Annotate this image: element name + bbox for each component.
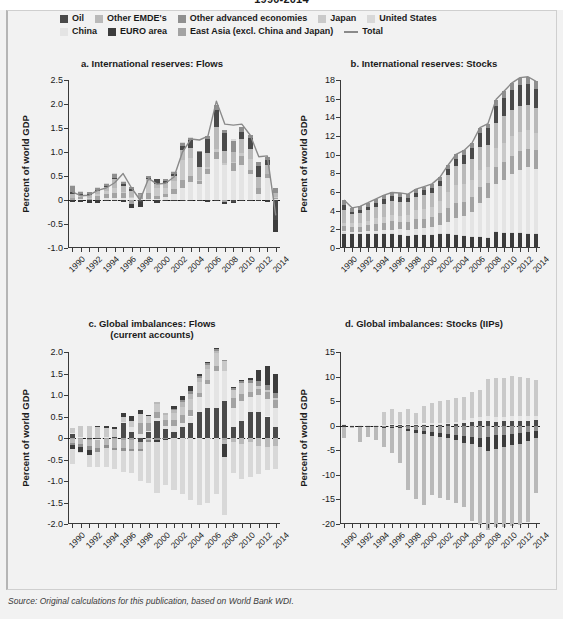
bar-1999[interactable] (146, 352, 151, 524)
bar-1993[interactable] (366, 80, 371, 248)
bar-2000[interactable] (422, 352, 427, 524)
bar-2002[interactable] (438, 80, 443, 248)
bar-1992[interactable] (87, 352, 92, 524)
bar-2009[interactable] (494, 352, 499, 524)
bar-1996[interactable] (121, 80, 126, 248)
bar-2006[interactable] (470, 80, 475, 248)
bar-2008[interactable] (486, 80, 491, 248)
bar-2004[interactable] (188, 80, 193, 248)
bar-1994[interactable] (104, 80, 109, 248)
bar-2003[interactable] (180, 80, 185, 248)
bar-2004[interactable] (454, 80, 459, 248)
bar-2013[interactable] (526, 80, 531, 248)
bar-2003[interactable] (446, 352, 451, 524)
bar-1992[interactable] (87, 80, 92, 248)
bar-2004[interactable] (454, 352, 459, 524)
legend-item-japan[interactable]: Japan (318, 12, 356, 25)
bar-2010[interactable] (239, 352, 244, 524)
bar-2011[interactable] (248, 80, 253, 248)
bar-2013[interactable] (265, 352, 270, 524)
bar-1996[interactable] (390, 80, 395, 248)
bar-2007[interactable] (214, 352, 219, 524)
bar-1990[interactable] (70, 352, 75, 524)
bar-2004[interactable] (188, 352, 193, 524)
bar-1994[interactable] (374, 80, 379, 248)
bar-1996[interactable] (121, 352, 126, 524)
bar-1993[interactable] (366, 352, 371, 524)
bar-2009[interactable] (231, 352, 236, 524)
bar-2011[interactable] (248, 352, 253, 524)
bar-1990[interactable] (342, 352, 347, 524)
bar-2009[interactable] (494, 80, 499, 248)
legend-item-other-advanced-economies[interactable]: Other advanced economies (178, 12, 308, 25)
legend-item-china[interactable]: China (60, 25, 97, 38)
bar-2001[interactable] (163, 352, 168, 524)
bar-1997[interactable] (129, 80, 134, 248)
bar-1999[interactable] (146, 80, 151, 248)
bar-2001[interactable] (163, 80, 168, 248)
bar-1999[interactable] (414, 80, 419, 248)
bar-1996[interactable] (390, 352, 395, 524)
bar-1998[interactable] (406, 80, 411, 248)
bar-1990[interactable] (342, 80, 347, 248)
legend-item-oil[interactable]: Oil (60, 12, 84, 25)
bar-2003[interactable] (180, 352, 185, 524)
legend-item-united-states[interactable]: United States (367, 12, 437, 25)
bar-2007[interactable] (214, 80, 219, 248)
bar-2001[interactable] (430, 352, 435, 524)
bar-2013[interactable] (265, 80, 270, 248)
bar-1994[interactable] (104, 352, 109, 524)
bar-2005[interactable] (197, 352, 202, 524)
bar-2014[interactable] (534, 80, 539, 248)
bar-2003[interactable] (446, 80, 451, 248)
bar-2008[interactable] (222, 352, 227, 524)
bar-2012[interactable] (256, 80, 261, 248)
bar-2008[interactable] (222, 80, 227, 248)
bar-2007[interactable] (478, 352, 483, 524)
bar-2014[interactable] (273, 352, 278, 524)
bar-2011[interactable] (510, 352, 515, 524)
bar-1991[interactable] (350, 352, 355, 524)
legend-item-total[interactable]: Total (344, 25, 383, 38)
bar-2012[interactable] (256, 352, 261, 524)
bar-2002[interactable] (171, 352, 176, 524)
bar-2002[interactable] (171, 80, 176, 248)
bar-2001[interactable] (430, 80, 435, 248)
bar-1991[interactable] (78, 80, 83, 248)
bar-2000[interactable] (154, 352, 159, 524)
legend-item-east-asia-excl-china-and-japan[interactable]: East Asia (excl. China and Japan) (178, 25, 333, 38)
bar-2011[interactable] (510, 80, 515, 248)
bar-1995[interactable] (382, 80, 387, 248)
bar-2006[interactable] (205, 352, 210, 524)
bar-2012[interactable] (518, 352, 523, 524)
bar-2006[interactable] (205, 80, 210, 248)
bar-1992[interactable] (358, 352, 363, 524)
bar-1995[interactable] (382, 352, 387, 524)
bar-1998[interactable] (138, 80, 143, 248)
bar-1993[interactable] (95, 352, 100, 524)
bar-1990[interactable] (70, 80, 75, 248)
bar-1993[interactable] (95, 80, 100, 248)
bar-1992[interactable] (358, 80, 363, 248)
bar-2000[interactable] (422, 80, 427, 248)
bar-2014[interactable] (273, 80, 278, 248)
bar-1998[interactable] (406, 352, 411, 524)
bar-1997[interactable] (398, 80, 403, 248)
bar-2010[interactable] (239, 80, 244, 248)
bar-1997[interactable] (398, 352, 403, 524)
bar-2005[interactable] (462, 80, 467, 248)
bar-2009[interactable] (231, 80, 236, 248)
bar-1995[interactable] (112, 80, 117, 248)
bar-1991[interactable] (350, 80, 355, 248)
bar-1994[interactable] (374, 352, 379, 524)
bar-1997[interactable] (129, 352, 134, 524)
bar-2012[interactable] (518, 80, 523, 248)
bar-2007[interactable] (478, 80, 483, 248)
bar-2005[interactable] (462, 352, 467, 524)
bar-2008[interactable] (486, 352, 491, 524)
bar-1998[interactable] (138, 352, 143, 524)
bar-2014[interactable] (534, 352, 539, 524)
bar-2010[interactable] (502, 352, 507, 524)
bar-2002[interactable] (438, 352, 443, 524)
bar-1995[interactable] (112, 352, 117, 524)
